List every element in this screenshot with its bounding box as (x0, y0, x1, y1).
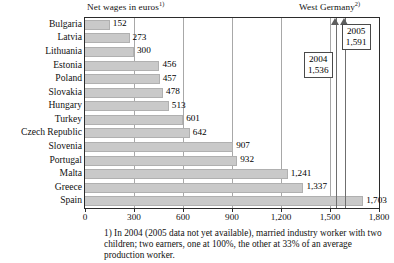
bar-value-label: 513 (172, 100, 186, 110)
reference-callout-value: 1,536 (308, 65, 329, 76)
bar-value-label: 456 (162, 59, 176, 69)
category-label-estonia: Estonia (0, 59, 82, 70)
reference-arrow-2004 (331, 18, 339, 25)
bar (85, 183, 303, 193)
x-tick-label: 1,500 (320, 212, 341, 222)
category-label-malta: Malta (0, 167, 82, 178)
bar-value-label: 642 (193, 127, 207, 137)
bar-value-label: 273 (133, 32, 147, 42)
bar (85, 47, 134, 57)
bar-value-label: 1,703 (366, 195, 387, 205)
category-label-slovakia: Slovakia (0, 86, 82, 97)
bar (85, 156, 237, 166)
bar-value-label: 478 (166, 86, 180, 96)
bar (85, 74, 160, 84)
bar-value-label: 932 (240, 154, 254, 164)
x-tick-label: 0 (83, 212, 88, 222)
x-tick-label: 900 (225, 212, 239, 222)
chart-figure: Net wages in euros1) West Germany2) 1522… (0, 0, 394, 263)
category-label-hungary: Hungary (0, 99, 82, 110)
bar (85, 61, 159, 71)
x-axis: 03006009001,2001,5001,800 (84, 209, 380, 229)
bar (85, 101, 169, 111)
reference-group-title-superscript: 2) (355, 0, 361, 7)
bar-value-label: 1,337 (306, 181, 327, 191)
reference-callout-2004: 20041,536 (304, 52, 333, 78)
bar (85, 169, 288, 179)
category-label-bulgaria: Bulgaria (0, 18, 82, 29)
category-label-lithuania: Lithuania (0, 45, 82, 56)
category-label-slovenia: Slovenia (0, 140, 82, 151)
chart-title: Net wages in euros1) (87, 2, 165, 12)
category-label-turkey: Turkey (0, 113, 82, 124)
x-tick-label: 300 (127, 212, 141, 222)
category-label-poland: Poland (0, 72, 82, 83)
bar-value-label: 601 (186, 113, 200, 123)
chart-title-superscript: 1) (159, 0, 165, 7)
bar-value-label: 152 (113, 18, 127, 28)
bar (85, 33, 130, 43)
category-label-latvia: Latvia (0, 31, 82, 42)
reference-callout-value: 1,591 (346, 37, 367, 48)
bar (85, 196, 363, 206)
bar (85, 128, 190, 138)
bar (85, 20, 110, 30)
category-label-greece: Greece (0, 181, 82, 192)
reference-group-title: West Germany2) (299, 2, 360, 12)
reference-callout-2005: 20051,591 (342, 24, 371, 50)
bar-value-label: 907 (236, 140, 250, 150)
x-tick-label: 1,200 (271, 212, 292, 222)
category-label-spain: Spain (0, 194, 82, 205)
bar (85, 88, 163, 98)
category-label-czech-republic: Czech Republic (0, 126, 82, 137)
plot-inner: 1522733004564574785136016429079321,2411,… (85, 18, 379, 208)
reference-callout-year: 2005 (346, 26, 367, 37)
bar (85, 115, 183, 125)
chart-title-text: Net wages in euros (87, 2, 159, 12)
footnote: 1) In 2004 (2005 data not yet available)… (104, 228, 386, 262)
reference-line-2004 (336, 18, 337, 208)
bar-value-label: 457 (163, 73, 177, 83)
bar (85, 142, 233, 152)
plot-area: 1522733004564574785136016429079321,2411,… (84, 17, 380, 209)
bar-value-label: 1,241 (291, 168, 312, 178)
bar-value-label: 300 (137, 45, 151, 55)
x-tick-label: 1,800 (369, 212, 390, 222)
category-label-portugal: Portugal (0, 154, 82, 165)
reference-callout-year: 2004 (308, 54, 329, 65)
x-tick-label: 600 (176, 212, 190, 222)
reference-group-title-text: West Germany (299, 2, 355, 12)
